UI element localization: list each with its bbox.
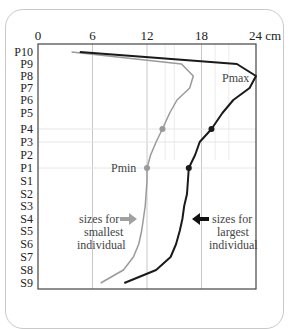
smallest-label-line2: smallest (84, 225, 124, 239)
x-axis-ticks: 06121824 cm (35, 28, 281, 43)
category-label: P3 (20, 135, 33, 149)
x-tick-label: 18 (195, 28, 208, 43)
largest-label-line2: largest (217, 225, 249, 239)
category-label: P4 (20, 122, 33, 136)
smallest-annotation: sizes for smallest individual (77, 212, 137, 252)
x-tick-label: 24 cm (249, 28, 281, 43)
data-point-marker (144, 165, 150, 171)
x-tick-label: 12 (141, 28, 154, 43)
pmax-label: Pmax (222, 71, 249, 85)
category-label: P6 (20, 93, 33, 107)
x-tick-label: 6 (89, 28, 96, 43)
x-tick-label: 0 (35, 28, 42, 43)
category-label: S9 (20, 276, 33, 290)
data-point-marker (186, 165, 192, 171)
data-point-marker (208, 126, 214, 132)
arrow-right-icon (120, 213, 137, 225)
category-label: P1 (20, 161, 33, 175)
category-label: S5 (20, 224, 33, 238)
largest-label-line3: individual (209, 238, 258, 252)
data-point-marker (159, 126, 165, 132)
category-label: P2 (20, 148, 33, 162)
pmin-label: Pmin (111, 161, 136, 175)
category-label: S1 (20, 174, 33, 188)
category-label: P5 (20, 106, 33, 120)
smallest-label-line1: sizes for (79, 212, 119, 226)
category-label: S3 (20, 199, 33, 213)
category-labels: P10P9P8P7P6P5P4P3P2P1S1S2S3S4S5S6S7S8S9 (14, 45, 33, 290)
category-label: S7 (20, 250, 33, 264)
category-label: S6 (20, 237, 33, 251)
smallest-label-line3: individual (77, 238, 126, 252)
arrow-left-icon (192, 213, 209, 225)
category-label: S8 (20, 263, 33, 277)
largest-label-line1: sizes for (212, 212, 252, 226)
